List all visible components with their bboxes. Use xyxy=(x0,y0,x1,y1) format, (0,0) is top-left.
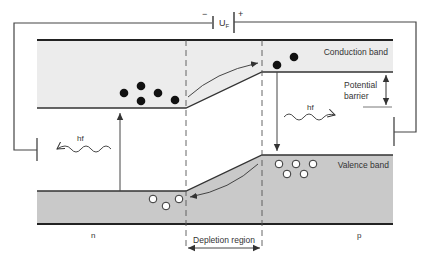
band-diagram: − + UF hf xyxy=(0,0,428,262)
wavy-arrow-right-icon xyxy=(284,114,335,120)
hole xyxy=(292,160,300,168)
hole xyxy=(300,170,308,178)
photon-right: hf xyxy=(284,103,335,120)
electron xyxy=(171,96,180,105)
electron xyxy=(154,89,163,98)
depletion-region-dimension: Depletion region xyxy=(188,235,260,248)
photon-left: hf xyxy=(57,134,111,152)
potential-barrier-label-line2: barrier xyxy=(344,91,369,101)
hole xyxy=(283,170,291,178)
electron xyxy=(273,61,282,70)
depletion-region-label: Depletion region xyxy=(193,235,255,245)
electron xyxy=(290,53,299,62)
battery-plus-sign: + xyxy=(238,9,243,19)
electron xyxy=(137,97,146,106)
potential-barrier-indicator: Potential barrier xyxy=(344,75,392,107)
battery-label: UF xyxy=(219,18,230,29)
hole xyxy=(149,195,157,203)
battery-uf: − + UF xyxy=(202,9,243,33)
photon-left-label: hf xyxy=(77,134,84,143)
hole xyxy=(275,160,283,168)
circuit-wire-right xyxy=(268,22,416,132)
n-region-label: n xyxy=(91,231,95,240)
electron xyxy=(120,89,129,98)
wavy-arrow-left-icon xyxy=(57,146,111,152)
conduction-band-label: Conduction band xyxy=(324,47,389,57)
p-region-label: p xyxy=(357,231,362,240)
photon-right-label: hf xyxy=(307,103,314,112)
electron xyxy=(137,82,146,91)
potential-barrier-label-line1: Potential xyxy=(344,80,377,90)
hole xyxy=(162,202,170,210)
hole xyxy=(175,195,183,203)
valence-band-label: Valence band xyxy=(338,160,390,170)
battery-minus-sign: − xyxy=(202,9,207,19)
hole xyxy=(309,160,317,168)
